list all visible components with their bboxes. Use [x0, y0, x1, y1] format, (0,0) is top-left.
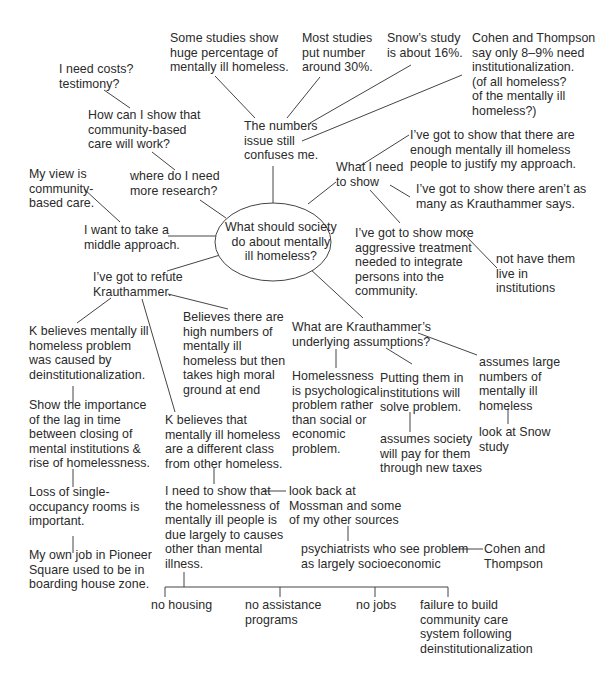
node-k-different-class: K believes that mentally ill homeless ar… [165, 413, 282, 471]
node-psychological: Homelessness is psychological problem ra… [292, 369, 380, 457]
cluster-diagram: What should society do about mentally il… [0, 0, 599, 680]
node-k-deinstitutionalization: K believes mentally ill homeless problem… [29, 324, 149, 382]
node-lag-time: Show the importance of the lag in time b… [29, 398, 150, 471]
node-cohen-thompson-top: Cohen and Thompson say only 8–9% need in… [472, 31, 595, 119]
node-more-research: where do I need more research? [130, 169, 220, 198]
node-assumes-society-pay: assumes society will pay for them throug… [380, 432, 482, 476]
node-assumes-large: assumes large numbers of mentally ill ho… [479, 355, 560, 413]
node-middle-approach: I want to take a middle approach. [84, 223, 180, 252]
node-my-view: My view is community- based care. [29, 167, 94, 211]
node-cohen-thompson-bottom: Cohen and Thompson [484, 542, 545, 571]
node-no-jobs: no jobs [356, 598, 396, 613]
node-look-back-mossman: look back at Mossman and some of my othe… [289, 484, 401, 528]
node-look-snow: look at Snow study [479, 425, 551, 454]
node-refute-krauthammer: I’ve got to refute Krauthammer. [93, 270, 183, 299]
node-aggressive-treatment: I’ve got to show more aggressive treatme… [355, 226, 474, 299]
node-pioneer-square: My own job in Pioneer Square used to be … [29, 548, 152, 592]
node-putting-institutions: Putting them in institutions will solve … [380, 371, 463, 415]
node-enough-homeless: I’ve got to show that there are enough m… [410, 128, 576, 172]
central-question: What should society do about mentally il… [225, 220, 337, 264]
node-numbers-issue: The numbers issue still confuses me. [244, 119, 318, 163]
node-most-studies: Most studies put number around 30%. [302, 31, 373, 75]
node-some-studies: Some studies show huge percentage of men… [170, 31, 289, 75]
node-snow-study: Snow’s study is about 16%. [387, 31, 463, 60]
node-no-housing: no housing [151, 598, 212, 613]
node-what-need-show: What I need to show [336, 160, 403, 189]
node-krauthammer-assumptions: What are Krauthammer’s underlying assump… [292, 320, 431, 349]
node-failure-build: failure to build community care system f… [420, 598, 533, 656]
node-believes-high-numbers: Believes there are high numbers of menta… [183, 310, 285, 398]
node-how-show: How can I show that community-based care… [88, 108, 201, 152]
node-not-institutions: not have them live in institutions [496, 252, 575, 296]
node-need-costs: I need costs? testimony? [59, 62, 133, 91]
node-need-show-causes: I need to show that the homelessness of … [165, 484, 283, 572]
node-not-as-many: I’ve got to show there aren’t as many as… [416, 182, 586, 211]
node-single-occupancy: Loss of single- occupancy rooms is impor… [29, 485, 139, 529]
node-psychiatrists: psychiatrists who see problem as largely… [301, 542, 468, 571]
node-no-assistance: no assistance programs [245, 598, 321, 627]
